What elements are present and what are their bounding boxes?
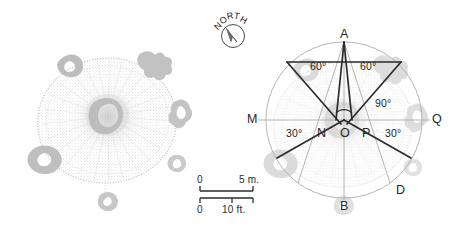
point-b-label: B (340, 200, 349, 213)
point-m-label: M (247, 113, 258, 126)
compass-rose-icon (222, 25, 245, 48)
point-q-label: Q (432, 113, 442, 126)
point-o-label: O (340, 127, 350, 140)
figure-svg (0, 0, 459, 233)
angle-60-left-label: 60° (310, 61, 326, 72)
scalebar-metric-start: 0 (197, 175, 203, 185)
plan-drawing-left (28, 51, 193, 211)
figure-root: N O R T H 0 5 m. 0 10 ft. A B D M N O P … (0, 0, 459, 233)
scalebars-group (200, 186, 253, 203)
scalebar-imperial-end: 10 ft. (222, 205, 245, 215)
point-a-label: A (340, 28, 349, 41)
angle-60-right-label: 60° (360, 61, 376, 72)
angle-90-center-label: 90° (375, 98, 391, 109)
point-p-label: P (362, 127, 371, 140)
point-d-label: D (396, 184, 405, 197)
point-n-label: N (317, 127, 326, 140)
scalebar-metric (200, 186, 253, 191)
scalebar-metric-end: 5 m. (239, 175, 259, 185)
scalebar-imperial-start: 0 (197, 205, 203, 215)
scalebar-imperial (200, 198, 253, 203)
angle-30-left-label: 30° (286, 128, 302, 139)
left-plan-panel (28, 51, 193, 211)
angle-30-right-label: 30° (385, 128, 401, 139)
